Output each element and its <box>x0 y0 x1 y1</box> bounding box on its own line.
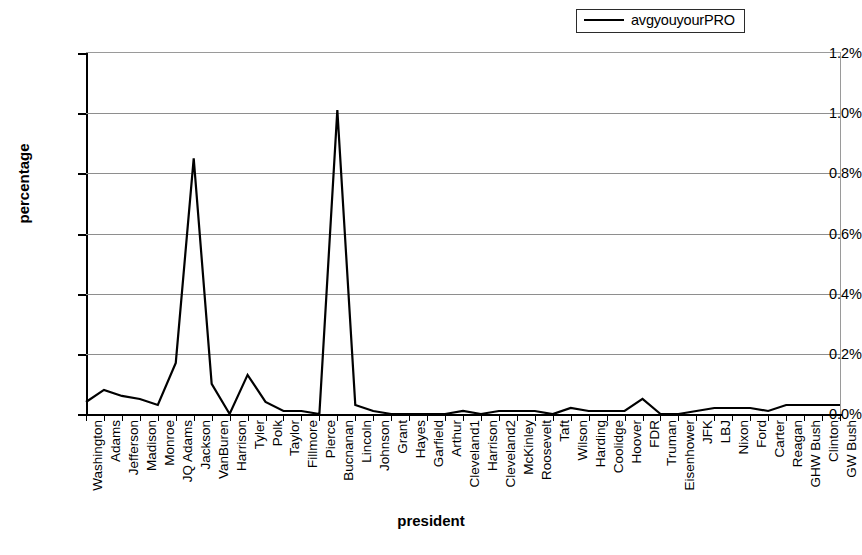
x-tick-label: Monroe <box>163 420 177 466</box>
x-tick-label: Bucnanan <box>342 420 356 481</box>
x-tick-label: Wilson <box>576 420 590 461</box>
chart-container: avgyouyourPRO percentage 0.0%0.2%0.4%0.6… <box>0 0 862 555</box>
gridline <box>86 354 841 355</box>
y-tick-mark <box>78 173 86 175</box>
x-tick-label: Arthur <box>450 420 464 457</box>
y-tick-label: 0.8% <box>810 166 862 181</box>
x-tick-label: Madison <box>145 420 159 471</box>
x-tick-label: VanBuren <box>217 420 231 479</box>
y-tick-mark <box>78 354 86 356</box>
y-tick-mark <box>78 113 86 115</box>
x-tick-label: Jefferson <box>127 420 141 475</box>
x-tick-label: Cleveland2 <box>504 420 518 488</box>
x-tick-label: Eisenhower <box>683 420 697 491</box>
plot-area <box>86 53 842 416</box>
y-axis-title: percentage <box>15 109 32 259</box>
x-axis-title: president <box>0 512 862 529</box>
y-tick-mark <box>78 414 86 416</box>
x-tick-label: Harrison <box>486 420 500 471</box>
gridline <box>86 173 841 174</box>
x-tick-label: GHW Bush <box>809 420 823 488</box>
legend-line-swatch <box>584 19 624 21</box>
x-tick-label: Coolidge <box>612 420 626 473</box>
x-tick-label: Cleveland1 <box>468 420 482 488</box>
x-tick-label: GW Bush <box>845 420 859 478</box>
x-tick-label: Garfield <box>432 420 446 467</box>
y-tick-label: 0.6% <box>810 227 862 242</box>
x-tick-label: Hoover <box>630 420 644 464</box>
x-tick-label: LBJ <box>719 420 733 443</box>
x-tick-label: JFK <box>701 420 715 444</box>
x-tick-label: Fillmore <box>306 420 320 468</box>
x-tick-label: Jackson <box>199 420 213 470</box>
x-tick-label: Lincoln <box>360 420 374 463</box>
x-tick-label: Harding <box>594 420 608 467</box>
x-tick-mark <box>86 414 87 421</box>
x-tick-label: JQ Adams <box>181 420 195 482</box>
x-tick-label: Ford <box>755 420 769 448</box>
chart-legend: avgyouyourPRO <box>576 9 745 33</box>
gridline <box>86 113 841 114</box>
x-tick-label: Truman <box>665 420 679 466</box>
y-tick-mark <box>78 294 86 296</box>
gridline <box>86 294 841 295</box>
x-tick-label: Roosevelt <box>540 420 554 480</box>
y-tick-label: 1.2% <box>810 46 862 61</box>
x-tick-label: Adams <box>109 420 123 462</box>
x-tick-label: Taylor <box>288 420 302 456</box>
x-tick-label: FDR <box>648 420 662 448</box>
x-tick-label: Reagan <box>791 420 805 467</box>
y-tick-mark <box>78 53 86 55</box>
gridline <box>86 234 841 235</box>
y-tick-label: 0.2% <box>810 347 862 362</box>
x-tick-label: Clinton <box>827 420 841 462</box>
x-tick-label: Nixon <box>737 420 751 455</box>
x-tick-label: Washington <box>91 420 105 491</box>
x-tick-label: Tyler <box>253 420 267 449</box>
x-tick-label: Johnson <box>378 420 392 471</box>
x-tick-label: Grant <box>396 420 410 454</box>
legend-label-series-0: avgyouyourPRO <box>631 13 735 28</box>
y-tick-mark <box>78 234 86 236</box>
y-tick-label: 1.0% <box>810 106 862 121</box>
x-tick-label: Carter <box>773 420 787 458</box>
x-tick-label: Pierce <box>324 420 338 458</box>
x-tick-label: Hayes <box>414 420 428 458</box>
x-tick-label: Polk <box>271 420 285 446</box>
x-tick-label: Taft <box>558 420 572 442</box>
x-tick-label: Harrison <box>235 420 249 471</box>
y-tick-label: 0.4% <box>810 287 862 302</box>
x-tick-label: McKinley <box>522 420 536 475</box>
